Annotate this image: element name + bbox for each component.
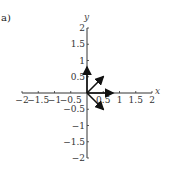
y-tick-label: −0.5 [63, 104, 85, 114]
y-tick-label: −2 [72, 153, 85, 163]
y-axis-label: y [83, 12, 90, 22]
x-tick-label: 1 [117, 95, 123, 105]
y-tick-label: 1 [79, 56, 85, 66]
x-tick-label: −1.5 [27, 95, 49, 105]
vector-plot: a) x y −2−1.5−1−0.50.511.52 21.510.5−0.5… [0, 0, 173, 169]
panel-label: a) [1, 12, 11, 23]
y-tick-label: −1 [72, 121, 85, 131]
x-tick-label: 2 [149, 95, 155, 105]
y-tick-label: 1.5 [71, 39, 86, 49]
y-tick-label: −1.5 [63, 137, 85, 147]
x-axis-label: x [155, 86, 160, 96]
vector-arrow [87, 77, 103, 93]
y-tick-label: 0.5 [71, 72, 86, 82]
x-tick-label: 1.5 [129, 95, 144, 105]
y-tick-label: 2 [79, 23, 85, 33]
